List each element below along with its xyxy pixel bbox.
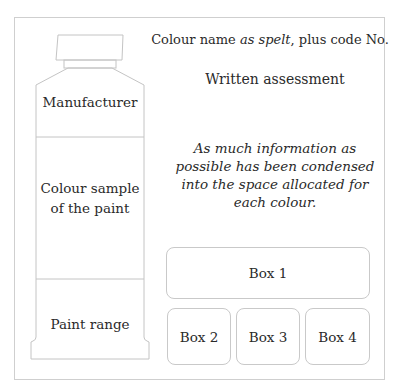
condensed-info-note: As much information as possible has been… (165, 139, 385, 211)
colour-name-heading: Colour name as spelt, plus code No. (150, 32, 390, 47)
box-4: Box 4 (305, 308, 370, 365)
note-line: into the space allocated for (165, 175, 385, 193)
note-line: possible has been condensed (165, 157, 385, 175)
box-4-label: Box 4 (318, 329, 357, 345)
box-2-label: Box 2 (180, 329, 219, 345)
paint-range-label: Paint range (36, 314, 144, 334)
note-line: As much information as (165, 139, 385, 157)
colour-sample-label-line1: Colour sample (36, 178, 144, 198)
box-2: Box 2 (167, 308, 231, 365)
box-3: Box 3 (236, 308, 300, 365)
note-line: each colour. (165, 193, 385, 211)
tube-collar (64, 60, 116, 68)
box-1: Box 1 (166, 247, 370, 299)
tube-cap (56, 35, 123, 60)
written-assessment-heading: Written assessment (165, 71, 385, 87)
manufacturer-label: Manufacturer (36, 92, 144, 112)
box-1-label: Box 1 (249, 265, 288, 281)
colour-sample-label-line2: of the paint (36, 198, 144, 218)
box-3-label: Box 3 (249, 329, 288, 345)
